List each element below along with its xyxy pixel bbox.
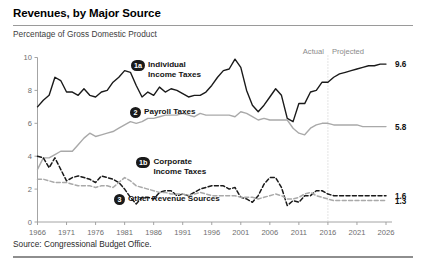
svg-text:Projected: Projected [332, 47, 364, 56]
callout-individual-income-taxes: 1a Individual Income Taxes [131, 60, 201, 79]
svg-text:1976: 1976 [87, 228, 104, 237]
svg-text:8: 8 [28, 86, 32, 95]
svg-text:4: 4 [28, 152, 32, 161]
badge-3-icon: 3 [114, 194, 125, 205]
svg-text:1981: 1981 [116, 228, 133, 237]
badge-1b-icon: 1b [136, 157, 150, 168]
plot-area: 0246810196619711976198119861991199620012… [0, 0, 426, 267]
callout-other-revenue-sources: 3 Other Revenue Sources [114, 194, 220, 205]
svg-text:Actual: Actual [303, 47, 324, 56]
revenues-chart-figure: Revenues, by Major Source Percentage of … [0, 0, 426, 267]
end-label-other: 1.3 [395, 197, 407, 206]
svg-text:2021: 2021 [349, 228, 366, 237]
callout-corporate-income-taxes: 1b Corporate Income Taxes [136, 157, 206, 176]
svg-text:0: 0 [28, 218, 32, 227]
svg-text:2001: 2001 [232, 228, 249, 237]
svg-text:1991: 1991 [174, 228, 191, 237]
svg-text:2: 2 [28, 185, 32, 194]
svg-text:2026: 2026 [378, 228, 395, 237]
svg-text:2011: 2011 [291, 228, 307, 237]
source-note: Source: Congressional Budget Office. [13, 239, 152, 249]
callout-label-corporate: Corporate Income Taxes [153, 157, 206, 176]
svg-text:1966: 1966 [29, 228, 46, 237]
svg-text:2016: 2016 [319, 228, 336, 237]
badge-2-icon: 2 [130, 107, 141, 118]
svg-text:1971: 1971 [58, 228, 75, 237]
end-label-payroll: 5.8 [395, 123, 407, 132]
bottom-divider [13, 256, 413, 258]
svg-text:2006: 2006 [261, 228, 278, 237]
chart-svg: 0246810196619711976198119861991199620012… [0, 0, 426, 267]
svg-text:6: 6 [28, 119, 32, 128]
svg-text:10: 10 [24, 53, 32, 62]
svg-text:1986: 1986 [145, 228, 162, 237]
svg-text:1996: 1996 [203, 228, 220, 237]
badge-1a-icon: 1a [131, 60, 145, 71]
callout-payroll-taxes: 2 Payroll Taxes [130, 107, 196, 118]
callout-label-payroll: Payroll Taxes [144, 107, 196, 117]
callout-label-individual: Individual Income Taxes [148, 60, 201, 79]
callout-label-other: Other Revenue Sources [128, 194, 220, 204]
end-label-individual: 9.6 [395, 60, 407, 69]
